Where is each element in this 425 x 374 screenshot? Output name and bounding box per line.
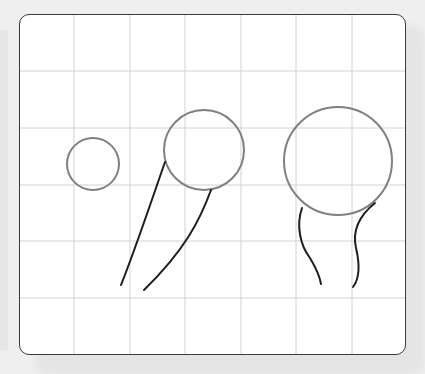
balloon-string: [144, 190, 211, 290]
balloon-string: [121, 162, 165, 285]
large-balloon[interactable]: [284, 107, 392, 215]
small-balloon[interactable]: [67, 138, 119, 190]
drawing-canvas[interactable]: [0, 0, 425, 374]
balloon-string: [299, 208, 321, 284]
balloon-string: [353, 203, 375, 287]
medium-balloon[interactable]: [164, 110, 244, 190]
